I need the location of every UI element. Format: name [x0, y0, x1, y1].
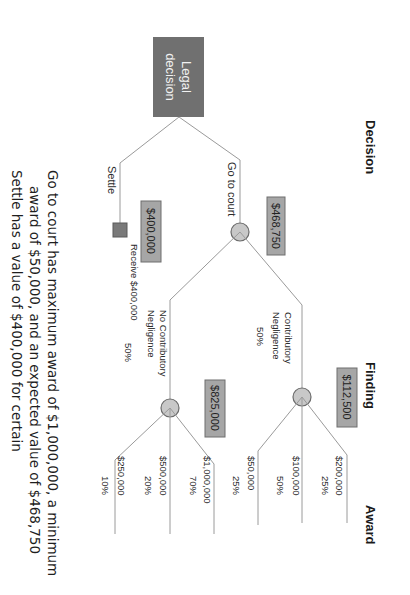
summary-line-2: award of $50,000, and an expected value …: [27, 186, 43, 554]
award-c2-probability: 50%: [275, 476, 286, 496]
no-contributory-label-2: Negligence: [146, 310, 157, 358]
award-c3-amount: $50,000: [246, 456, 257, 490]
award-c2-amount: $100,000: [291, 456, 302, 496]
summary-line-1: Go to court has maximum award of $1,000,…: [45, 170, 61, 576]
header-decision: Decision: [363, 120, 378, 174]
contributory-label-2: Negligence: [271, 312, 282, 360]
award-n1-probability: 70%: [188, 476, 199, 496]
contributory-label-1: Contributory: [283, 312, 294, 364]
award-n3-amount: $250,000: [116, 456, 127, 496]
go-to-court-label: Go to court: [226, 162, 238, 216]
no-contributory-probability: 50%: [123, 343, 134, 363]
no-contributory-label-1: No Contributory: [158, 310, 169, 377]
settle-terminal-node: [113, 223, 127, 237]
decision-node-label-1: Legal: [179, 61, 194, 93]
decision-tree-diagram: Decision Finding Award Legal decision Go…: [0, 0, 410, 595]
header-finding: Finding: [363, 362, 378, 409]
settle-label: Settle: [106, 166, 118, 194]
no-contributory-value: $825,000: [209, 385, 221, 431]
summary-line-3: Settle has a value of $400,000 for certa…: [9, 170, 25, 452]
settle-value: $400,000: [145, 208, 157, 254]
award-n3-probability: 10%: [100, 476, 111, 496]
contributory-probability: 50%: [255, 327, 266, 347]
legal-decision-node: Legal decision: [153, 37, 204, 117]
contributory-value: $112,500: [341, 374, 353, 419]
decision-node-label-2: decision: [163, 53, 178, 101]
award-c3-probability: 25%: [231, 476, 242, 496]
award-n2-amount: $500,000: [158, 456, 169, 496]
award-c1-amount: $200,000: [334, 456, 345, 496]
go-to-court-value: $468,750: [270, 203, 282, 249]
award-c1-probability: 25%: [320, 476, 331, 496]
settle-outcome: Receive $400,000: [129, 244, 140, 321]
header-award: Award: [363, 505, 378, 545]
award-n2-probability: 20%: [143, 476, 154, 496]
award-n1-amount: $1,000,000: [202, 456, 213, 504]
